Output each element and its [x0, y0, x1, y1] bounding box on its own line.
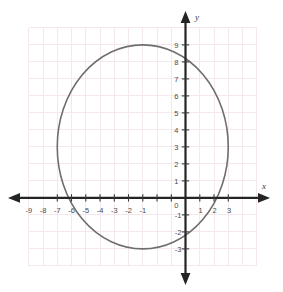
- x-tick-label: -1: [139, 206, 146, 215]
- y-tick-label: 4: [174, 126, 178, 135]
- x-tick-label: -7: [54, 206, 61, 215]
- y-tick-label: 8: [174, 58, 178, 67]
- graph-svg: -9 -8 -7 -6 -5 -4 -3 -2 -1 1 2 3 0 9 8 7…: [0, 0, 283, 292]
- x-tick-label: -6: [68, 206, 75, 215]
- y-tick-label: 1: [174, 177, 178, 186]
- y-tick-label: -2: [175, 228, 182, 237]
- x-tick-label: -4: [97, 206, 104, 215]
- x-axis-label: x: [261, 181, 266, 191]
- y-tick-label: 7: [174, 75, 178, 84]
- y-tick-label: 3: [174, 143, 178, 152]
- x-tick-label: 3: [227, 206, 231, 215]
- x-tick-label: 2: [213, 206, 217, 215]
- y-tick-label: -3: [175, 245, 182, 254]
- x-tick-label: -5: [82, 206, 89, 215]
- y-tick-label: 9: [174, 41, 178, 50]
- coordinate-plane-graph: -9 -8 -7 -6 -5 -4 -3 -2 -1 1 2 3 0 9 8 7…: [0, 0, 283, 292]
- y-tick-label: 5: [174, 109, 178, 118]
- origin-label: 0: [174, 201, 178, 210]
- y-tick-label: 2: [174, 160, 178, 169]
- y-tick-label: 6: [174, 92, 178, 101]
- x-tick-labels: -9 -8 -7 -6 -5 -4 -3 -2 -1 1 2 3: [25, 206, 231, 215]
- x-tick-label: -3: [111, 206, 118, 215]
- x-tick-label: -9: [25, 206, 32, 215]
- y-tick-label: -1: [175, 211, 182, 220]
- y-axis-label: y: [194, 12, 199, 22]
- x-tick-label: -8: [40, 206, 47, 215]
- x-tick-label: -2: [125, 206, 132, 215]
- x-tick-label: 1: [198, 206, 202, 215]
